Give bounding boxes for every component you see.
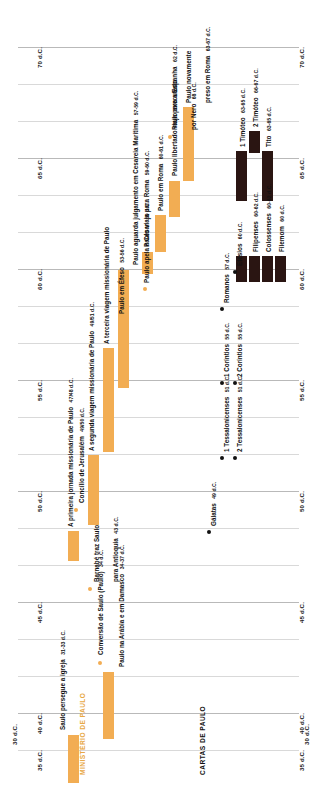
gridline-59ad: [18, 306, 299, 307]
section-title-letters: CARTAS DE PAULO: [199, 706, 206, 775]
ministry-bar-espanha: [169, 181, 180, 217]
letter-label-2corintios: 2 Coríntios 55 d.C.: [229, 323, 246, 377]
ministry-label-executado: Paulo executado por Nero 68 d.C.: [163, 80, 201, 130]
letter-dot-romanos: [220, 307, 224, 311]
paul-timeline-chart: 70 d.C. 65 d.C. 60 d.C. 55 d.C. 50 d.C. …: [0, 0, 317, 785]
letter-dot-efesios: [233, 270, 237, 274]
section-title-ministry: MINISTÉRIO DE PAULO: [79, 693, 86, 775]
letter-bar-filemom: [275, 256, 286, 282]
ministry-bar-segunda-viagem: [88, 455, 99, 525]
letter-dot-2tessalonicenses: [233, 456, 237, 460]
letter-dot-1tessalonicenses: [220, 456, 224, 460]
axis-tick-left-30: 30 d.C.: [11, 724, 18, 745]
axis-tick-left-65: 65 d.C.: [36, 158, 43, 179]
gridline-48ad: [18, 565, 299, 566]
axis-tick-left-70: 70 d.C.: [36, 47, 43, 68]
letter-bar-colossenses: [262, 256, 273, 282]
axis-tick-right-55: 55 d.C.: [298, 380, 305, 401]
axis-tick-right-35: 35 d.C.: [298, 750, 305, 771]
ministry-bar-terceira-viagem: [103, 348, 114, 452]
axis-tick-right-30: 30 d.C.: [303, 724, 310, 745]
gridline-58ad: [18, 343, 299, 344]
letter-label-tito: Tito 63-65 d.C.: [258, 107, 275, 147]
gridline-45ad: [18, 602, 299, 603]
axis-tick-right-70: 70 d.C.: [298, 47, 305, 68]
letter-bar-filipenses: [249, 256, 260, 282]
axis-tick-right-45: 45 d.C.: [298, 602, 305, 623]
ministry-bar-saulo-persegue: [68, 735, 79, 783]
ministry-bar-efeso: [118, 318, 129, 388]
axis-tick-left-55: 55 d.C.: [36, 380, 43, 401]
letter-label-galatas: Gálatas 49 d.C.: [203, 482, 220, 526]
ministry-label-barnabe: Barnabé traz Saulo para Antioquia 43 d.C…: [85, 517, 123, 582]
axis-tick-left-60: 60 d.C.: [36, 269, 43, 290]
letter-label-filemom: Filemom 60 d.C.: [271, 205, 288, 252]
ministry-label-saulo-persegue: Saulo persegue a igreja 31-33 d.C.: [52, 630, 69, 730]
ministry-dot-apela-cesar: [143, 287, 147, 291]
axis-tick-left-35: 35 d.C.: [36, 750, 43, 771]
axis-tick-right-60: 60 d.C.: [298, 269, 305, 290]
axis-tick-right-50: 50 d.C.: [298, 491, 305, 512]
ministry-bar-arabia-damasco: [103, 672, 114, 739]
axis-tick-right-65: 65 d.C.: [298, 158, 305, 179]
letter-label-efesios: Efésios 60 d.C.: [229, 222, 246, 266]
gridline-35ad: [18, 750, 299, 751]
axis-tick-left-40: 40 d.C.: [36, 713, 43, 734]
axis-tick-left-45: 45 d.C.: [36, 602, 43, 623]
ministry-bar-em-roma: [155, 215, 166, 252]
gridline-49ad: [18, 528, 299, 529]
ministry-dot-conversao: [98, 661, 102, 665]
ministry-bar-primeira-jornada: [68, 531, 79, 561]
letter-label-2tessalonicenses: 2 Tessalonicenses 51 d.C.: [229, 375, 246, 452]
gridline-70ad: [18, 47, 299, 48]
axis-tick-left-50: 50 d.C.: [36, 491, 43, 512]
letter-dot-galatas: [207, 530, 211, 534]
